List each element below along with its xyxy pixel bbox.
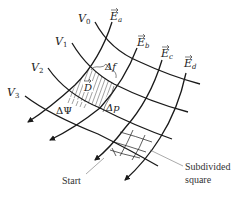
label-ec: Ec [160,45,173,61]
svg-text:Ec: Ec [160,47,173,61]
equipotential-v3 [25,96,158,166]
svg-text:Ed: Ed [183,57,197,71]
label-v2: V2 [31,61,43,75]
svg-text:Eb: Eb [136,36,150,50]
label-start: Start [62,175,81,186]
label-v3: V3 [7,86,19,100]
label-ed: Ed [183,55,197,71]
field-lines [28,22,186,180]
label-delta-psi: ΔΨ [56,105,72,116]
label-v1: V1 [55,35,67,49]
equipotential-v0 [95,22,200,84]
subdivided-square-grid [110,130,152,160]
label-v0: V0 [78,12,90,26]
label-delta-f: Δf [104,61,118,72]
label-delta-p: Δp [105,102,120,113]
equipotential-lines [25,22,200,166]
start-leader [86,158,104,174]
label-d-vector: D [83,79,93,93]
label-subdivided-line2: square [185,174,212,185]
svg-text:Ea: Ea [109,10,122,24]
label-eb: Eb [136,34,150,50]
svg-text:D: D [83,82,92,93]
label-subdivided-line1: Subdivided [185,161,231,172]
label-ea: Ea [109,8,122,24]
field-map-svg: V0 V1 V2 V3 Ea Eb Ec Ed Δf D Δp ΔΨ St [0,0,240,201]
field-map-diagram: V0 V1 V2 V3 Ea Eb Ec Ed Δf D Δp ΔΨ St [0,0,240,201]
